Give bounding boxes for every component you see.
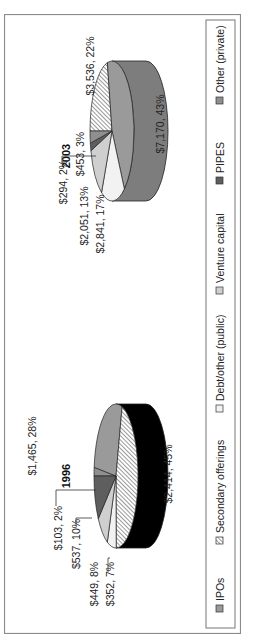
data-label: $537, 10% [70,519,82,569]
legend-label: Secondary offerings [214,440,226,533]
pie-1996 [94,404,168,548]
pie-chart: 1996 2003 $1,465, 28%$2,414, 45%$352, 7%… [4,14,241,634]
data-label: $2,051, 13% [78,187,90,246]
data-label: $352, 7% [104,562,116,606]
legend-label: PIPES [214,142,226,173]
data-label: $453, 3% [74,132,86,176]
legend-swatch-icon [216,605,223,612]
legend-label: IPOs [214,578,226,601]
chart-stage: 1996 2003 $1,465, 28%$2,414, 45%$352, 7%… [4,14,241,634]
legend-item: Debt/other (public) [214,315,226,412]
legend-swatch-icon [216,177,223,184]
data-label: $1,465, 28% [26,417,38,476]
legend-swatch-icon [216,97,223,104]
data-label: $2,841, 17% [94,195,106,254]
legend-label: Other (private) [214,25,226,93]
data-label: $2,414, 45% [162,445,174,504]
data-label: $3,536, 22% [84,37,96,96]
data-label: $449, 8% [88,562,100,606]
legend-label: Venture capital [214,214,226,283]
legend-item: Venture capital [214,214,226,294]
legend-label: Debt/other (public) [214,315,226,401]
legend-swatch-icon [216,287,223,294]
data-label: $7,170, 43% [154,95,166,154]
legend: IPOsSecondary offeringsDebt/other (publi… [206,20,235,628]
legend-swatch-icon [216,405,223,412]
data-label: $103, 2% [52,506,64,550]
data-label: $294, 2% [57,160,69,204]
pie-title-1996: 1996 [60,464,72,488]
legend-item: Secondary offerings [214,440,226,544]
legend-swatch-icon [216,537,223,544]
legend-item: Other (private) [214,25,226,104]
